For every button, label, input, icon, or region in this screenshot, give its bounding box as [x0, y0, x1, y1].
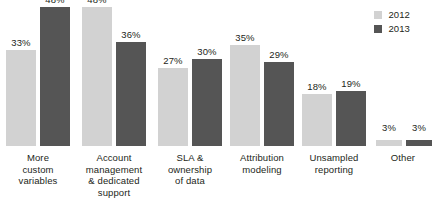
- bar-group-attribution-modeling: 35% 29% Attribution modeling: [224, 0, 300, 209]
- bar-group-sla-ownership: 27% 30% SLA & ownership of data: [152, 0, 228, 209]
- bar-group-unsampled-reporting: 18% 19% Unsampled reporting: [296, 0, 372, 209]
- bar-2013[interactable]: [116, 42, 146, 146]
- bar-2012[interactable]: [158, 68, 188, 146]
- category-label: Other: [360, 152, 434, 164]
- category-label-line: Account: [70, 152, 158, 164]
- category-label-line: support: [70, 187, 158, 199]
- bar-2013[interactable]: [264, 62, 294, 146]
- bar-group-bars: 18% 19%: [296, 0, 372, 146]
- bar-value-label: 48%: [40, 0, 70, 4]
- category-label-line: management: [70, 164, 158, 176]
- bar-group-more-custom-variables: 33% 48% More custom variables: [0, 0, 76, 209]
- category-label: Account management & dedicated support: [70, 152, 158, 198]
- bar-2012[interactable]: [302, 94, 332, 146]
- bar-value-label: 18%: [302, 82, 332, 92]
- bar-group-account-management: 48% 36% Account management & dedicated s…: [76, 0, 152, 209]
- bar-value-label: 33%: [6, 38, 36, 48]
- bar-2013[interactable]: [336, 91, 366, 146]
- bar-group-other: 3% 3% Other: [372, 0, 434, 209]
- bar-group-bars: 48% 36%: [76, 0, 152, 146]
- bar-value-label: 30%: [192, 47, 222, 57]
- bar-2012[interactable]: [82, 7, 112, 146]
- bar-group-bars: 27% 30%: [152, 0, 228, 146]
- bar-2012[interactable]: [376, 140, 402, 146]
- category-label-line: & dedicated: [70, 175, 158, 187]
- bar-2013[interactable]: [406, 140, 432, 146]
- category-label-line: of data: [146, 175, 234, 187]
- grouped-bar-chart: 2012 2013 33% 48% More custom v: [0, 0, 434, 209]
- bar-group-bars: 33% 48%: [0, 0, 76, 146]
- bar-value-label: 19%: [336, 79, 366, 89]
- bar-group-bars: 3% 3%: [372, 0, 434, 146]
- bar-value-label: 3%: [406, 123, 432, 133]
- bar-value-label: 27%: [158, 56, 188, 66]
- bar-2013[interactable]: [40, 7, 70, 146]
- bar-value-label: 3%: [376, 123, 402, 133]
- plot-area: 33% 48% More custom variables 48%: [0, 0, 434, 209]
- bar-value-label: 29%: [264, 50, 294, 60]
- bar-2012[interactable]: [6, 50, 36, 146]
- bar-value-label: 48%: [82, 0, 112, 4]
- category-label-line: Other: [360, 152, 434, 164]
- bar-group-bars: 35% 29%: [224, 0, 300, 146]
- bar-value-label: 35%: [230, 33, 260, 43]
- bar-2012[interactable]: [230, 45, 260, 146]
- category-label-line: reporting: [290, 164, 378, 176]
- bar-2013[interactable]: [192, 59, 222, 146]
- bar-value-label: 36%: [116, 30, 146, 40]
